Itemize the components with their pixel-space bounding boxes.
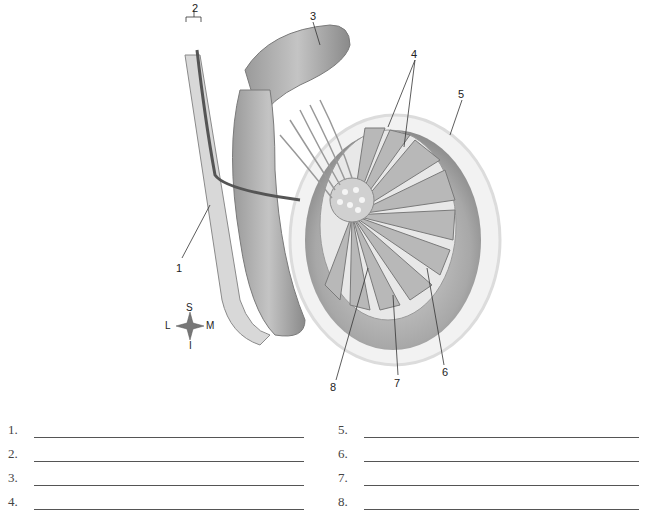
answer-row-1: 1. xyxy=(8,418,304,438)
answer-row-2: 2. xyxy=(8,442,304,462)
answer-field-4[interactable] xyxy=(34,508,304,510)
answer-field-3[interactable] xyxy=(34,484,304,486)
testis-diagram: 1 2 3 4 5 6 7 8 S I L M xyxy=(0,0,657,410)
answer-field-6[interactable] xyxy=(364,460,639,462)
answer-label-4: 4. xyxy=(8,494,34,510)
callout-1: 1 xyxy=(176,262,182,274)
answer-label-6: 6. xyxy=(338,446,364,462)
callout-5: 5 xyxy=(458,88,464,100)
answer-label-5: 5. xyxy=(338,422,364,438)
answer-field-8[interactable] xyxy=(364,508,639,510)
compass-rose-icon xyxy=(176,312,204,340)
answer-row-4: 4. xyxy=(8,490,304,510)
answer-row-8: 8. xyxy=(338,490,639,510)
answer-field-2[interactable] xyxy=(34,460,304,462)
callout-8: 8 xyxy=(330,381,336,393)
answer-field-5[interactable] xyxy=(364,436,639,438)
callout-7: 7 xyxy=(394,377,400,389)
compass-inferior-label: I xyxy=(189,340,192,351)
answer-row-5: 5. xyxy=(338,418,639,438)
answer-field-7[interactable] xyxy=(364,484,639,486)
answer-row-3: 3. xyxy=(8,466,304,486)
anatomy-illustration xyxy=(0,0,657,410)
answer-label-7: 7. xyxy=(338,470,364,486)
callout-2: 2 xyxy=(192,2,198,14)
answer-label-3: 3. xyxy=(8,470,34,486)
callout-6: 6 xyxy=(442,366,448,378)
callout-4: 4 xyxy=(411,48,417,60)
answer-field-1[interactable] xyxy=(34,436,304,438)
callout-3: 3 xyxy=(310,10,316,22)
compass-medial-label: M xyxy=(206,320,214,331)
answer-label-8: 8. xyxy=(338,494,364,510)
compass-superior-label: S xyxy=(186,302,193,313)
compass-lateral-label: L xyxy=(165,320,171,331)
answer-sheet: 1. 2. 3. 4. 5. 6. 7. 8. xyxy=(0,418,657,518)
answer-row-7: 7. xyxy=(338,466,639,486)
answer-label-1: 1. xyxy=(8,422,34,438)
answer-label-2: 2. xyxy=(8,446,34,462)
answer-row-6: 6. xyxy=(338,442,639,462)
